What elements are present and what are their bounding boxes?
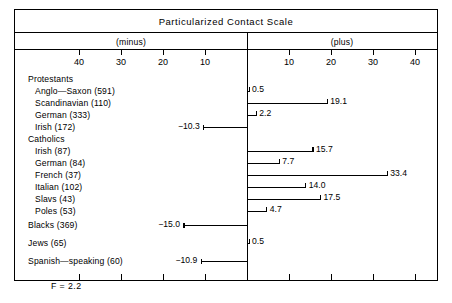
row-label: Irish (172) bbox=[35, 121, 75, 133]
axis-tick-mark-bottom bbox=[79, 274, 80, 280]
axis-tick-mark bbox=[163, 50, 164, 55]
bar-value-label: −10.9 bbox=[175, 254, 197, 266]
value-bar bbox=[247, 163, 279, 164]
axis-tick-mark bbox=[289, 50, 290, 55]
row-label: Spanish—speaking (60) bbox=[28, 255, 123, 267]
axis-tick-label: 40 bbox=[74, 57, 84, 67]
axis-tick-mark-bottom bbox=[289, 274, 290, 280]
bar-end-cap bbox=[266, 207, 267, 212]
f-statistic-label: F = 2.2 bbox=[51, 281, 81, 291]
bar-end-cap bbox=[256, 111, 257, 116]
row-label: Scandinavian (110) bbox=[35, 97, 111, 109]
sign-band-divider bbox=[247, 33, 248, 50]
bar-end-cap bbox=[183, 223, 184, 228]
row-label: Irish (87) bbox=[35, 145, 70, 157]
row-label: Jews (65) bbox=[28, 237, 67, 249]
bar-end-cap bbox=[249, 87, 250, 92]
chart-row: Italian (102)14.0 bbox=[15, 181, 437, 193]
bar-value-label: 17.5 bbox=[324, 191, 341, 203]
axis-tick-mark bbox=[205, 50, 206, 55]
bar-value-label: −10.3 bbox=[178, 120, 200, 132]
plus-side-label: (plus) bbox=[247, 33, 437, 50]
axis-tick-mark-bottom bbox=[331, 274, 332, 280]
value-bar bbox=[247, 103, 327, 104]
sign-band: (minus) (plus) bbox=[15, 33, 437, 50]
axis-tick-label: 30 bbox=[368, 57, 378, 67]
axis-tick-mark bbox=[415, 50, 416, 55]
bar-end-cap bbox=[305, 183, 306, 188]
chart-row: Jews (65)0.5 bbox=[15, 237, 437, 249]
row-label: Blacks (369) bbox=[28, 219, 78, 231]
bar-end-cap bbox=[249, 239, 250, 244]
axis-tick-label: 10 bbox=[200, 57, 210, 67]
bar-end-cap bbox=[320, 195, 321, 200]
value-bar bbox=[204, 127, 247, 128]
bar-value-label: 19.1 bbox=[330, 95, 347, 107]
axis-tick-mark-bottom bbox=[205, 274, 206, 280]
bar-end-cap bbox=[201, 259, 202, 264]
row-label: Catholics bbox=[28, 133, 65, 145]
bar-end-cap bbox=[203, 125, 204, 130]
axis-tick-mark-bottom bbox=[373, 274, 374, 280]
bar-value-label: 2.2 bbox=[259, 107, 271, 119]
chart-row: Scandinavian (110)19.1 bbox=[15, 97, 437, 109]
bar-end-cap bbox=[387, 171, 388, 176]
chart-row: Protestants bbox=[15, 73, 437, 85]
value-bar bbox=[247, 175, 387, 176]
axis-tick-mark bbox=[79, 50, 80, 55]
axis-tick-mark-bottom bbox=[415, 274, 416, 280]
chart-row: German (84)7.7 bbox=[15, 157, 437, 169]
plot-area: F = 2.2 ProtestantsAnglo—Saxon (591)0.5S… bbox=[15, 73, 437, 280]
bar-value-label: 15.7 bbox=[316, 143, 333, 155]
row-label: Poles (53) bbox=[35, 205, 76, 217]
bar-value-label: 14.0 bbox=[309, 179, 326, 191]
axis-tick-label: 20 bbox=[326, 57, 336, 67]
chart-row: Spanish—speaking (60)−10.9 bbox=[15, 255, 437, 267]
value-bar bbox=[247, 187, 306, 188]
chart-row: German (333)2.2 bbox=[15, 109, 437, 121]
row-label: German (84) bbox=[35, 157, 85, 169]
chart-row: Catholics bbox=[15, 133, 437, 145]
bar-end-cap bbox=[327, 99, 328, 104]
row-label: Anglo—Saxon (591) bbox=[35, 85, 115, 97]
bar-value-label: 7.7 bbox=[282, 155, 294, 167]
row-label: Italian (102) bbox=[35, 181, 82, 193]
axis-tick-mark bbox=[373, 50, 374, 55]
chart-row: Anglo—Saxon (591)0.5 bbox=[15, 85, 437, 97]
chart-title-band: Particularized Contact Scale bbox=[15, 10, 437, 33]
bar-value-label: 4.7 bbox=[270, 203, 282, 215]
chart-row: French (37)33.4 bbox=[15, 169, 437, 181]
chart-row: Poles (53)4.7 bbox=[15, 205, 437, 217]
row-label: French (37) bbox=[35, 169, 81, 181]
axis-tick-mark-bottom bbox=[163, 274, 164, 280]
bar-end-cap bbox=[312, 147, 313, 152]
row-label: Slavs (43) bbox=[35, 193, 75, 205]
bar-end-cap bbox=[279, 159, 280, 164]
row-label: Protestants bbox=[28, 73, 73, 85]
chart-title: Particularized Contact Scale bbox=[159, 16, 294, 27]
chart-row: Irish (87)15.7 bbox=[15, 145, 437, 157]
axis-tick-label: 30 bbox=[116, 57, 126, 67]
bar-value-label: 0.5 bbox=[252, 83, 264, 95]
bar-value-label: 33.4 bbox=[390, 167, 407, 179]
chart-row: Blacks (369)−15.0 bbox=[15, 219, 437, 231]
axis-tick-label: 40 bbox=[410, 57, 420, 67]
figure-panel: Particularized Contact Scale (minus) (pl… bbox=[14, 9, 438, 281]
row-label: German (333) bbox=[35, 109, 90, 121]
bar-value-label: 0.5 bbox=[252, 235, 264, 247]
axis-tick-row: 4030201010203040 bbox=[15, 50, 437, 73]
bar-value-label: −15.0 bbox=[158, 218, 180, 230]
value-bar bbox=[247, 151, 313, 152]
axis-tick-mark-bottom bbox=[121, 274, 122, 280]
value-bar bbox=[184, 225, 247, 226]
value-bar bbox=[247, 199, 321, 200]
value-bar bbox=[247, 211, 267, 212]
value-bar bbox=[201, 261, 247, 262]
axis-tick-mark bbox=[331, 50, 332, 55]
axis-tick-label: 20 bbox=[158, 57, 168, 67]
axis-tick-label: 10 bbox=[284, 57, 294, 67]
chart-row: Irish (172)−10.3 bbox=[15, 121, 437, 133]
minus-side-label: (minus) bbox=[15, 33, 247, 50]
chart-row: Slavs (43)17.5 bbox=[15, 193, 437, 205]
axis-tick-mark bbox=[121, 50, 122, 55]
